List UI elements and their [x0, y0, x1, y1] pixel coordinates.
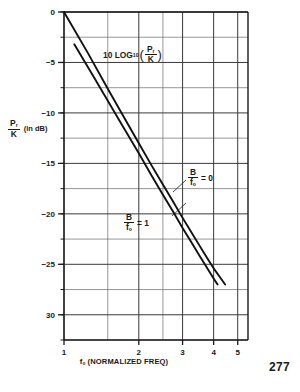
curve-label-b1-value: = 1 — [137, 218, 149, 228]
annotation-prefix: 10 LOG — [103, 50, 133, 60]
curve-label-b1-fraction: B fo — [124, 213, 134, 232]
curve-label-b0-fraction: B fo — [188, 168, 198, 187]
y-axis-title-unit: (in dB) — [24, 124, 48, 133]
y-axis-major-ticks — [58, 12, 64, 315]
x-tick-label: 2 — [137, 348, 142, 357]
x-tick-label: 4 — [211, 348, 216, 357]
x-axis-title: fo (NORMALIZED FREQ) — [0, 357, 248, 366]
y-axis-title: Pr K (in dB) — [8, 119, 47, 138]
y-tick-label: −5 — [46, 58, 56, 67]
y-tick-label: −15 — [41, 159, 55, 168]
x-axis-major-ticks — [64, 340, 238, 345]
annotation-formula: 10 LOG10 ( Pr K ) — [103, 45, 163, 64]
y-axis-title-fraction: Pr K — [8, 119, 20, 138]
annotation-close-paren: ) — [158, 47, 162, 62]
annotation-open-paren: ( — [140, 47, 144, 62]
x-tick-label: 3 — [180, 348, 185, 357]
curve-label-b-over-f0-equals-0: B fo = 0 — [188, 168, 213, 187]
page-number: 277 — [269, 360, 290, 374]
figure-chart: 0−5−10−15−20−2530 12345 Pr K (in dB) fo … — [0, 0, 300, 392]
curve-label-b0-denominator: fo — [188, 178, 198, 187]
y-axis-title-denominator: K — [8, 130, 20, 139]
annotation-base: 10 — [133, 52, 139, 58]
curve-label-b1-denominator: fo — [124, 223, 134, 232]
y-tick-label: 30 — [46, 311, 55, 320]
curve-b-over-f0-1 — [74, 44, 217, 284]
x-tick-label: 1 — [62, 348, 67, 357]
y-tick-label: −10 — [41, 109, 55, 118]
annotation-denominator: K — [145, 55, 157, 64]
y-tick-label: 0 — [51, 8, 56, 17]
x-axis-tick-labels: 12345 — [62, 348, 241, 357]
y-tick-label: −25 — [41, 260, 55, 269]
curve-label-b0-value: = 0 — [201, 173, 213, 183]
grid-minor-horizontal-lines — [64, 37, 248, 340]
curve-label-b-over-f0-equals-1: B fo = 1 — [124, 213, 149, 232]
y-axis-title-numerator: Pr — [8, 119, 20, 130]
x-tick-label: 5 — [235, 348, 240, 357]
annotation-fraction: Pr K — [145, 45, 157, 64]
y-axis-tick-labels: 0−5−10−15−20−2530 — [41, 8, 55, 320]
y-tick-label: −20 — [41, 210, 55, 219]
